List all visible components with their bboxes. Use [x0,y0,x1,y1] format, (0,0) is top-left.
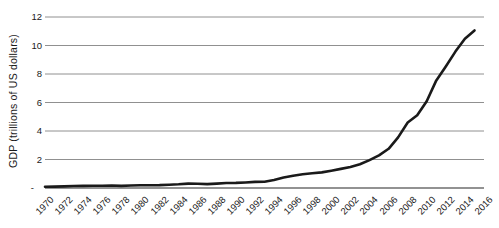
y-tick-label: 8 [0,68,42,80]
y-tick-label: 4 [0,125,42,137]
y-tick-label: 10 [0,40,42,52]
plot-area [0,0,499,228]
y-tick-label: 12 [0,11,42,23]
gdp-line-chart: GDP (trillions of US dollars) 12108642- … [0,0,499,228]
y-tick-label: - [0,182,42,194]
y-tick-label: 6 [0,97,42,109]
y-tick-label: 2 [0,154,42,166]
gdp-line-series [45,30,475,186]
